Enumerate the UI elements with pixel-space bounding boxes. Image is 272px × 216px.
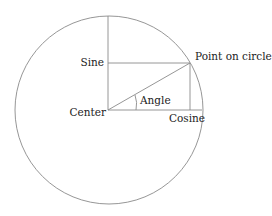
angle-label: Angle — [139, 94, 171, 106]
cosine-label: Cosine — [169, 112, 205, 124]
sine-label: Sine — [80, 56, 104, 68]
center-label: Center — [70, 106, 107, 118]
unit-circle-diagram: Sine Point on circle Angle Center Cosine — [0, 0, 272, 216]
point-label: Point on circle — [195, 50, 272, 62]
angle-arc — [135, 95, 137, 110]
